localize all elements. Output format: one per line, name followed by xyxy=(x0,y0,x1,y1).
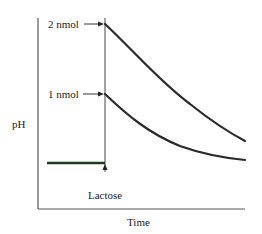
annotation-1nmol: 1 nmol xyxy=(48,88,79,100)
curve-2nmol xyxy=(105,24,245,141)
annotation-lactose: Lactose xyxy=(88,189,122,201)
y-axis-label: pH xyxy=(12,118,26,130)
annotation-2nmol: 2 nmol xyxy=(48,18,79,30)
arrow-2nmol-head xyxy=(98,22,104,27)
arrow-lactose-head xyxy=(103,164,108,170)
curve-1nmol xyxy=(105,94,245,160)
arrow-1nmol-head xyxy=(98,92,104,97)
x-axis-label: Time xyxy=(127,216,150,228)
ph-time-chart: 2 nmol 1 nmol Lactose pH Time xyxy=(0,0,262,234)
